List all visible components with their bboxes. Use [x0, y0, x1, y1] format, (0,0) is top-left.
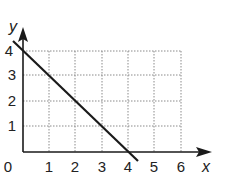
x-tick-3: 3 [98, 158, 106, 175]
x-tick-6: 6 [177, 158, 185, 175]
x-tick-1: 1 [45, 158, 53, 175]
x-tick-2: 2 [71, 158, 79, 175]
y-tick-3: 3 [8, 66, 16, 83]
y-axis-label: y [8, 18, 18, 35]
y-tick-4: 4 [5, 42, 13, 59]
y-tick-1: 1 [8, 117, 16, 134]
x-tick-5: 5 [150, 158, 158, 175]
origin-label: 0 [4, 158, 12, 175]
grid [23, 51, 181, 152]
x-tick-4: 4 [124, 158, 132, 175]
y-tick-2: 2 [8, 92, 16, 109]
x-axis-label: x [201, 158, 211, 175]
line-chart: 0 1 2 3 4 5 6 x 1 2 3 4 y [0, 0, 227, 187]
